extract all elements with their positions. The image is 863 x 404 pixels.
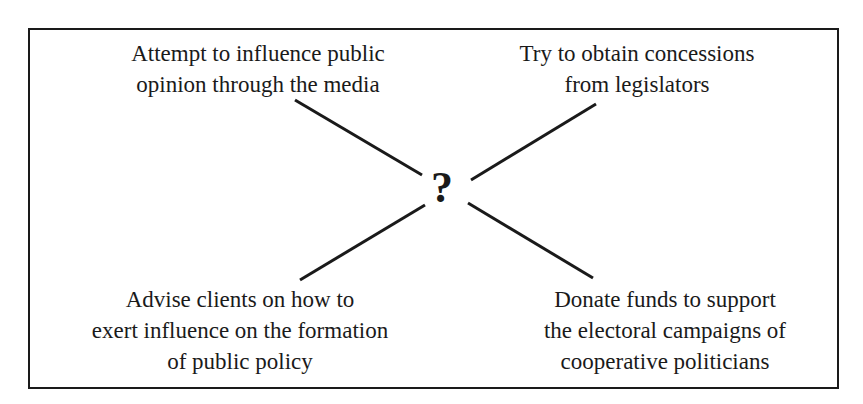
connector-bottom-left xyxy=(300,205,425,280)
node-line: Attempt to influence public xyxy=(108,38,408,69)
node-line: Try to obtain concessions xyxy=(497,38,777,69)
connector-top-right xyxy=(471,104,596,180)
node-top-left: Attempt to influence public opinion thro… xyxy=(108,38,408,100)
node-line: Advise clients on how to xyxy=(60,284,420,315)
node-top-right: Try to obtain concessions from legislato… xyxy=(497,38,777,100)
node-line: opinion through the media xyxy=(108,69,408,100)
node-line: from legislators xyxy=(497,69,777,100)
node-line: the electoral campaigns of xyxy=(515,315,815,346)
connector-bottom-right xyxy=(468,203,593,278)
node-line: Donate funds to support xyxy=(515,284,815,315)
node-line: cooperative politicians xyxy=(515,346,815,377)
node-bottom-right: Donate funds to support the electoral ca… xyxy=(515,284,815,377)
center-question-mark: ? xyxy=(431,166,453,210)
connector-top-left xyxy=(295,100,422,175)
node-line: of public policy xyxy=(60,346,420,377)
node-bottom-left: Advise clients on how to exert influence… xyxy=(60,284,420,377)
node-line: exert influence on the formation xyxy=(60,315,420,346)
